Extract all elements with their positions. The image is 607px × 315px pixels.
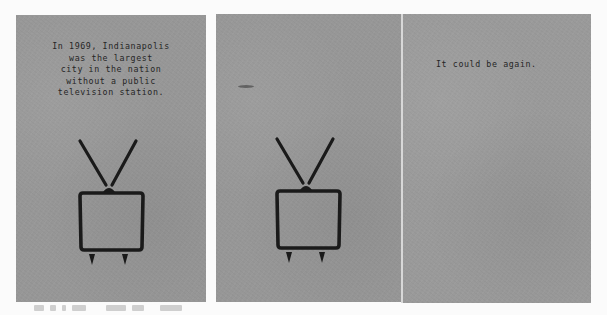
tv-icon: [74, 137, 150, 267]
illegible-caption: [34, 305, 182, 313]
panel-right: It could be again.: [403, 14, 591, 303]
panel-left: In 1969, Indianapolis was the largest ci…: [16, 15, 206, 302]
ink-smudge: [238, 85, 254, 88]
panel-1-text: In 1969, Indianapolis was the largest ci…: [16, 41, 206, 99]
panel-middle: [216, 14, 402, 302]
panel-3-text: It could be again.: [436, 59, 537, 71]
tv-icon: [271, 135, 347, 265]
